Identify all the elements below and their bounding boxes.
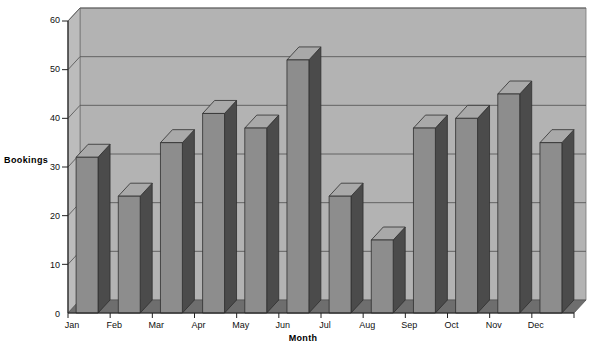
bar-side-face bbox=[267, 115, 279, 313]
bar-jul bbox=[329, 183, 363, 313]
bar-feb bbox=[118, 183, 152, 313]
x-tick-label: Nov bbox=[473, 320, 515, 330]
bar-side-face bbox=[351, 183, 363, 313]
x-tick-label: Jan bbox=[51, 320, 93, 330]
x-tick-label: Feb bbox=[93, 320, 135, 330]
bar-front-face bbox=[456, 118, 478, 313]
bar-chart: 60 50 40 30 20 10 0 Bookings JanFebMarAp… bbox=[0, 0, 606, 348]
bar-front-face bbox=[287, 60, 309, 313]
bar-may bbox=[245, 115, 279, 313]
bar-front-face bbox=[203, 113, 225, 313]
bar-side-face bbox=[98, 144, 110, 313]
x-tick-label: Dec bbox=[515, 320, 557, 330]
bar-front-face bbox=[371, 240, 393, 313]
bar-aug bbox=[371, 227, 405, 313]
x-axis-title: Month bbox=[0, 333, 606, 343]
plot-area bbox=[0, 0, 606, 348]
bar-side-face bbox=[182, 130, 194, 313]
bar-side-face bbox=[562, 130, 574, 313]
bar-front-face bbox=[329, 196, 351, 313]
bar-side-face bbox=[393, 227, 405, 313]
bar-jun bbox=[287, 47, 321, 313]
bar-front-face bbox=[118, 196, 140, 313]
x-tick-label: Sep bbox=[388, 320, 430, 330]
x-tick-label: Aug bbox=[346, 320, 388, 330]
x-tick-label: Jul bbox=[304, 320, 346, 330]
x-tick-label: Mar bbox=[135, 320, 177, 330]
bar-front-face bbox=[76, 157, 98, 313]
bar-front-face bbox=[160, 143, 182, 313]
bar-front-face bbox=[413, 128, 435, 313]
bar-front-face bbox=[540, 143, 562, 313]
bar-front-face bbox=[245, 128, 267, 313]
bar-side-face bbox=[309, 47, 321, 313]
bar-oct bbox=[456, 105, 490, 313]
bar-front-face bbox=[498, 94, 520, 313]
bar-side-face bbox=[225, 100, 237, 313]
x-tick-label: Jun bbox=[262, 320, 304, 330]
bar-side-face bbox=[140, 183, 152, 313]
x-tick-label: Apr bbox=[177, 320, 219, 330]
bar-mar bbox=[160, 130, 194, 313]
bar-apr bbox=[203, 100, 237, 313]
bar-side-face bbox=[520, 81, 532, 313]
bar-nov bbox=[498, 81, 532, 313]
bar-side-face bbox=[478, 105, 490, 313]
x-tick-label: Oct bbox=[430, 320, 472, 330]
x-tick-label: May bbox=[220, 320, 262, 330]
bar-jan bbox=[76, 144, 110, 313]
bar-side-face bbox=[435, 115, 447, 313]
bar-dec bbox=[540, 130, 574, 313]
bar-sep bbox=[413, 115, 447, 313]
